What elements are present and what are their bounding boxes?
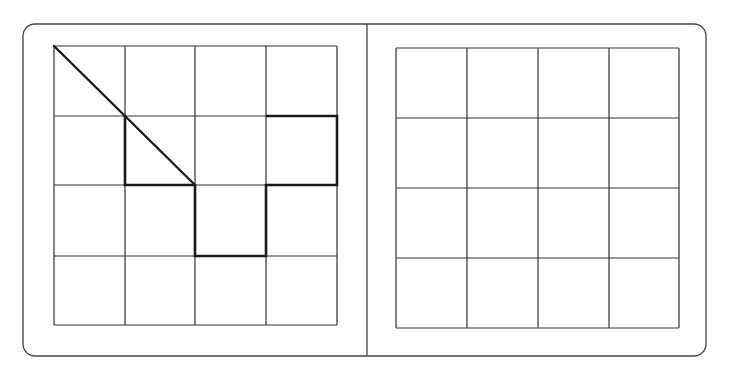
bold-shape-outline	[125, 116, 337, 256]
right-grid	[396, 48, 679, 328]
puzzle-figure	[0, 0, 746, 370]
